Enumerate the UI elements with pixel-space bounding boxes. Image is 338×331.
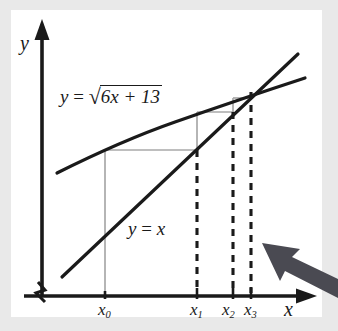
tick-label-x0-base: x <box>98 300 106 319</box>
arrow-pointer-shape <box>262 243 338 298</box>
tick-label-x2-subscript: 2 <box>230 309 235 320</box>
curve-equation-radicand: 6x + 13 <box>100 85 162 107</box>
tick-label-x1: x1 <box>190 301 203 320</box>
tick-label-x3: x3 <box>244 301 257 320</box>
line-equation-equals: = <box>141 218 152 239</box>
line-equation-label: y = x <box>128 219 165 238</box>
y-axis-arrowhead <box>35 19 50 40</box>
tick-label-x3-subscript: 3 <box>252 309 257 320</box>
diagram-canvas <box>0 0 338 331</box>
curve-equation-equals: = <box>73 86 84 107</box>
y-axis-label-text: y <box>20 32 29 54</box>
tick-label-x1-subscript: 1 <box>198 309 203 320</box>
x-axis-label-text: x <box>284 298 293 320</box>
x-axis-label: x <box>284 299 293 319</box>
figure-page: y x y = √6x + 13 y = x x0 x1 x2 x3 <box>0 0 338 331</box>
cobweb-staircase <box>105 98 252 296</box>
tick-label-x0: x0 <box>98 301 111 320</box>
line-equation-rhs: x <box>157 218 165 239</box>
fixed-point-iteration-diagram: y x y = √6x + 13 y = x x0 x1 x2 x3 <box>0 0 338 331</box>
y-axis-label: y <box>20 33 29 53</box>
line-equation-lhs: y <box>128 218 136 239</box>
curve-equation-label: y = √6x + 13 <box>60 85 162 107</box>
tick-label-x2: x2 <box>222 301 235 320</box>
tick-label-x0-subscript: 0 <box>106 309 111 320</box>
curve-equation-lhs: y <box>60 86 68 107</box>
radical-sign-icon: √ <box>89 84 101 109</box>
tick-label-x2-base: x <box>222 300 230 319</box>
arrow-pointer-icon <box>262 243 338 298</box>
tick-label-x3-base: x <box>244 300 252 319</box>
tick-label-x1-base: x <box>190 300 198 319</box>
x-axis-arrowhead <box>296 289 317 304</box>
